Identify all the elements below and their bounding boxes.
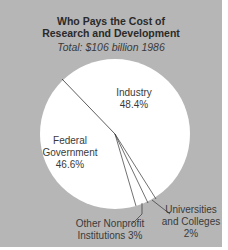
label-federal-line1: Federal: [40, 135, 100, 147]
label-univ-line1: Universities: [160, 204, 222, 216]
label-other-line1: Other Nonprofit: [70, 218, 150, 230]
label-industry-name: Industry: [104, 87, 164, 99]
label-univ-line2: and Colleges: [160, 216, 222, 228]
label-industry-value: 48.4%: [104, 99, 164, 111]
chart-background: Who Pays the Cost of Research and Develo…: [0, 0, 222, 247]
label-federal-line2: Government: [40, 147, 100, 159]
label-other-line2: Institutions 3%: [70, 230, 150, 242]
label-univ-value: 2%: [160, 228, 222, 240]
label-federal-value: 46.6%: [40, 159, 100, 171]
